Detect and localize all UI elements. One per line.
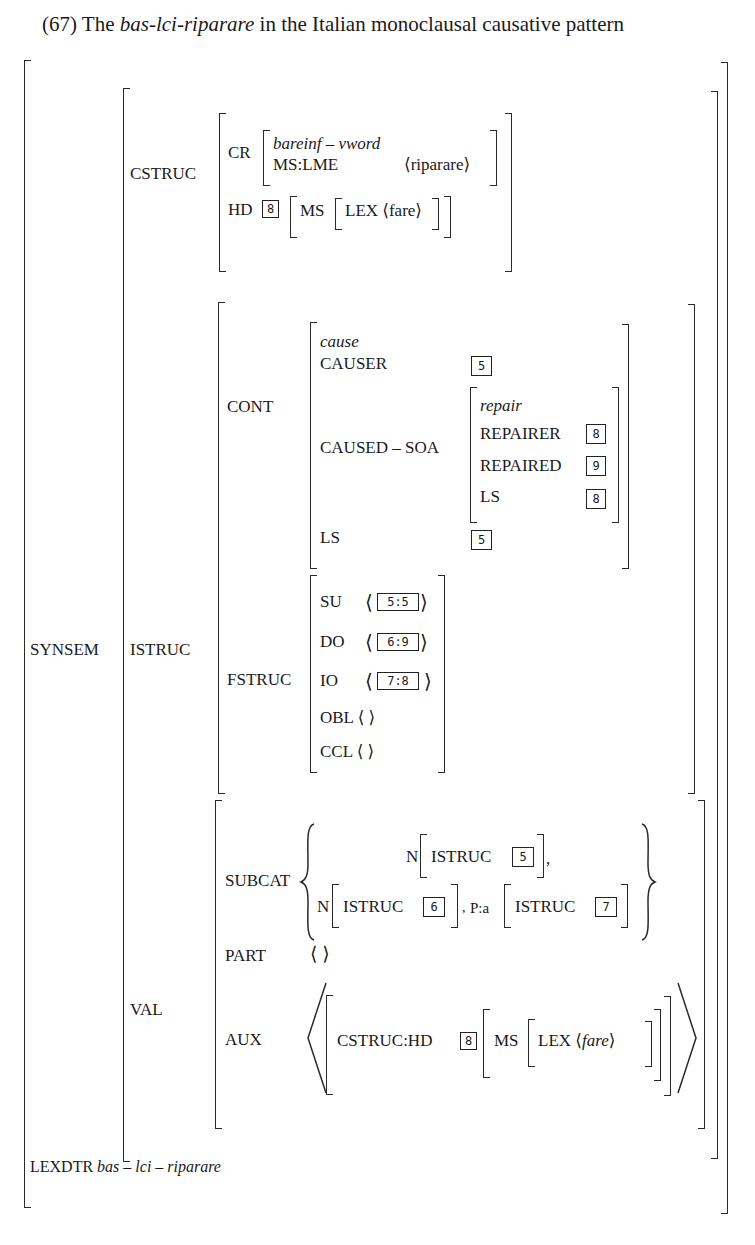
cont-label: CONT (227, 397, 273, 417)
angle-left-icon: ⟨ (365, 632, 373, 652)
fstruc-row-do: DO (320, 632, 345, 652)
soa-ls-label: LS (480, 487, 500, 507)
cont-type: cause (320, 332, 359, 352)
angle-left-icon: ⟨ (365, 592, 373, 612)
fstruc-row-su: SU (320, 592, 342, 612)
bracket-right (621, 884, 628, 928)
empty-list-icon: ⟨ ⟩ (310, 944, 330, 964)
caused-soa-type: repair (480, 396, 522, 416)
brace-right-icon (640, 823, 660, 941)
cont-bracket-right (622, 324, 629, 569)
ms-lme-label: MS:LME (273, 155, 338, 175)
cont-bracket-left (310, 322, 317, 569)
lex-entry: LEX ⟨fare⟩ (345, 201, 422, 221)
aux-ms-label: MS (494, 1031, 519, 1051)
tag-box-5: 5 (512, 847, 534, 867)
tag-box-6: 6 (423, 897, 445, 917)
bracket-left (528, 1019, 535, 1067)
tag-box-8: 8 (586, 424, 606, 444)
aux-bracket-left (326, 995, 333, 1095)
comma: , (546, 849, 550, 869)
ms-bracket-left (335, 198, 342, 230)
hd-bracket-right (444, 196, 451, 238)
tag-box-5: 5 (471, 530, 492, 550)
ms-bracket-right (432, 198, 439, 230)
lexdtr-value: bas – lci – riparare (97, 1158, 221, 1175)
subcat-item1-cat: N (406, 847, 418, 867)
tag-box-8: 8 (460, 1032, 477, 1050)
val-label: VAL (130, 1000, 163, 1020)
fstruc-bracket-left (310, 575, 317, 773)
example-title-rest: in the Italian monoclausal causative pat… (254, 12, 624, 36)
bracket-left (420, 834, 427, 878)
tag-box-8: 8 (262, 200, 279, 218)
subcat-item3-cat: P:a (470, 898, 489, 918)
istruc-bracket-right (688, 304, 695, 794)
hd-label: HD (228, 200, 253, 220)
fstruc-bracket-right (438, 575, 445, 773)
causer-label: CAUSER (320, 354, 387, 374)
caused-soa-label: CAUSED – SOA (320, 438, 439, 458)
angle-right-icon: ⟩ (420, 632, 428, 652)
cstruc-label: CSTRUC (130, 164, 196, 184)
istruc-bracket-left (218, 302, 225, 794)
bracket-right (451, 884, 458, 928)
tag-box-7-8: 7:8 (377, 672, 419, 690)
subcat-item3-attr: ISTRUC (515, 897, 575, 917)
cr-bracket-right (490, 130, 497, 186)
caused-soa-bracket-left (470, 387, 477, 523)
example-term: bas-lci-riparare (120, 12, 255, 36)
subcat-item1-attr: ISTRUC (431, 847, 491, 867)
cr-label: CR (228, 143, 251, 163)
fstruc-row-obl: OBL ⟨ ⟩ (320, 708, 375, 728)
subcat-item2-cat: N (317, 897, 329, 917)
synsem-bracket-right (711, 91, 718, 1159)
cstruc-bracket-left (219, 113, 226, 272)
subcat-label: SUBCAT (225, 871, 290, 891)
aux-bracket-right (664, 996, 671, 1096)
bracket-right (645, 1021, 652, 1067)
tag-box-6-9: 6:9 (377, 633, 419, 651)
hd-bracket-left (290, 196, 297, 238)
tag-box-8: 8 (586, 489, 606, 509)
repaired-label: REPAIRED (480, 456, 562, 476)
cstruc-bracket-right (505, 113, 512, 272)
outer-bracket-right (721, 62, 728, 1214)
cr-type: bareinf – vword (273, 134, 380, 154)
aux-path: CSTRUC:HD (337, 1031, 432, 1051)
tag-box-5: 5 (471, 356, 492, 376)
angle-left-icon (306, 982, 328, 1094)
lexdtr-entry: LEXDTR bas – lci – riparare (30, 1157, 221, 1177)
subcat-item2-attr: ISTRUC (343, 897, 403, 917)
aux-lex-entry: LEX ⟨fare⟩ (538, 1031, 615, 1051)
aux-label: AUX (225, 1030, 262, 1050)
hd-ms-label: MS (300, 201, 325, 221)
fstruc-label: FSTRUC (227, 670, 291, 690)
lexdtr-label: LEXDTR (30, 1158, 93, 1175)
bracket-left (483, 1009, 490, 1078)
fstruc-row-ccl: CCL ⟨ ⟩ (320, 742, 374, 762)
caused-soa-bracket-right (612, 387, 619, 523)
synsem-bracket-left (123, 88, 130, 1162)
istruc-label: ISTRUC (130, 640, 190, 660)
angle-right-icon (676, 982, 698, 1094)
repairer-label: REPAIRER (480, 424, 561, 444)
cr-bracket-left (263, 130, 270, 186)
brace-left-icon (300, 823, 320, 941)
ms-lme-value: ⟨riparare⟩ (404, 155, 470, 175)
example-number: (67) The (42, 12, 120, 36)
bracket-right (654, 1009, 661, 1081)
comma-sep: , (462, 898, 466, 918)
bracket-left (332, 884, 339, 928)
example-title: (67) The bas-lci-riparare in the Italian… (42, 12, 624, 36)
val-bracket-left (215, 800, 222, 1129)
angle-right-icon: ⟩ (420, 592, 428, 612)
fstruc-row-io: IO (320, 671, 338, 691)
cont-ls-label: LS (320, 528, 340, 548)
angle-left-icon: ⟨ (365, 671, 373, 691)
angle-right-icon: ⟩ (424, 671, 432, 691)
tag-box-7: 7 (595, 897, 617, 917)
synsem-label: SYNSEM (30, 640, 99, 660)
val-bracket-right (698, 800, 705, 1129)
tag-box-9: 9 (586, 456, 606, 476)
